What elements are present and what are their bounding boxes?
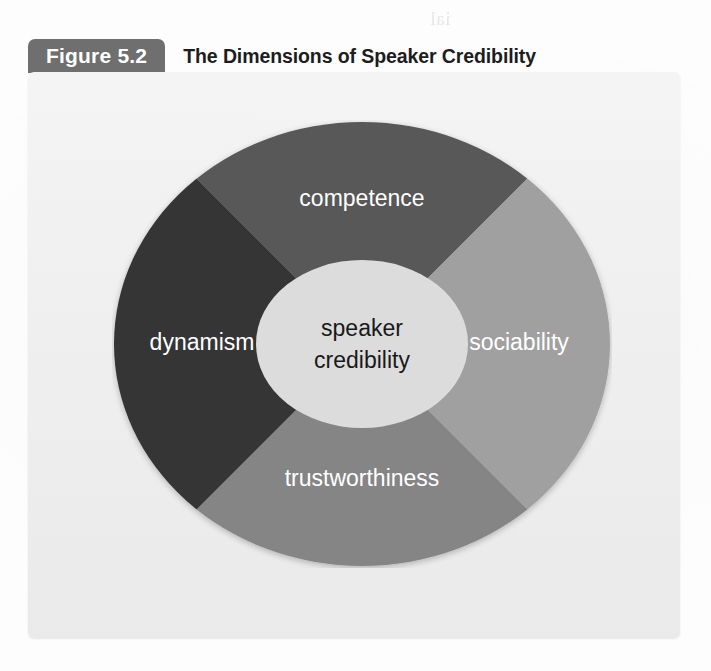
center-hub[interactable] <box>256 260 468 428</box>
figure-header: Figure 5.2 The Dimensions of Speaker Cre… <box>28 38 536 74</box>
wedge-label-sociability: sociability <box>469 329 569 355</box>
wedge-label-dynamism: dynamism <box>150 329 255 355</box>
figure-title: The Dimensions of Speaker Credibility <box>183 45 536 68</box>
wheel-svg: competence sociability trustworthiness d… <box>112 120 612 568</box>
center-label-line1: speaker <box>321 315 403 341</box>
speaker-credibility-wheel: competence sociability trustworthiness d… <box>112 120 612 568</box>
figure-number-badge: Figure 5.2 <box>28 39 165 73</box>
wedge-label-trustworthiness: trustworthiness <box>285 465 440 491</box>
center-label-line2: credibility <box>314 347 410 373</box>
wedge-label-competence: competence <box>299 185 424 211</box>
